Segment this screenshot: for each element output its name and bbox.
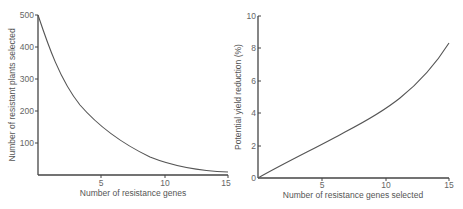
left-xtick-15: 15 — [221, 178, 231, 188]
right-ytick-0: 0 — [251, 173, 256, 183]
right-xtick-15: 15 — [444, 180, 454, 190]
left-ytick-100: 100 — [20, 138, 34, 148]
right-y-axis-title: Potential yield reduction (%) — [233, 44, 243, 150]
left-xtick-5: 5 — [99, 178, 104, 188]
right-ytick-6: 6 — [251, 76, 256, 86]
left-y-axis-title: Number of resistant plants selected — [7, 28, 17, 162]
left-ytick-200: 200 — [20, 106, 34, 116]
right-y-ticks: 10 8 6 4 2 0 — [247, 11, 261, 183]
left-ytick-300: 300 — [20, 74, 34, 84]
right-ytick-4: 4 — [251, 108, 256, 118]
figure: 500 400 300 200 100 5 10 15 Number of re… — [0, 0, 463, 209]
right-curve — [258, 43, 449, 178]
left-ytick-400: 400 — [20, 42, 34, 52]
left-x-ticks: 5 10 15 — [99, 175, 231, 188]
right-chart: 10 8 6 4 2 0 5 10 15 Number of resistanc… — [233, 11, 454, 200]
left-ytick-500: 500 — [20, 10, 34, 20]
right-x-axis-title: Number of resistance genes selected — [283, 190, 424, 200]
right-ytick-10: 10 — [247, 11, 257, 21]
right-xtick-10: 10 — [381, 180, 391, 190]
left-xtick-10: 10 — [160, 178, 170, 188]
left-curve — [38, 15, 228, 172]
left-y-ticks: 500 400 300 200 100 — [20, 10, 38, 148]
left-x-axis-title: Number of resistance genes — [80, 188, 186, 198]
right-ytick-8: 8 — [251, 43, 256, 53]
right-ytick-2: 2 — [251, 141, 256, 151]
right-xtick-5: 5 — [320, 180, 325, 190]
left-chart: 500 400 300 200 100 5 10 15 Number of re… — [7, 10, 231, 198]
right-x-ticks: 5 10 15 — [320, 178, 454, 190]
